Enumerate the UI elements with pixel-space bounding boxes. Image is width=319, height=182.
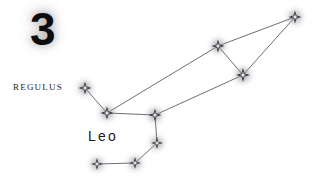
constellation-label-leo: Leo (88, 128, 118, 144)
constellation-line (218, 17, 295, 46)
star-label-regulus: Regulus (13, 79, 63, 94)
constellation-figure: 3 Regulus Leo (0, 0, 319, 182)
constellation-line (97, 163, 135, 164)
constellation-line (107, 113, 155, 115)
plate-number: 3 (30, 6, 55, 52)
constellation-line (107, 46, 218, 113)
star-marker-layer (79, 11, 302, 171)
constellation-line (243, 17, 295, 75)
star-glow-layer (79, 11, 301, 169)
constellation-line (155, 75, 243, 115)
